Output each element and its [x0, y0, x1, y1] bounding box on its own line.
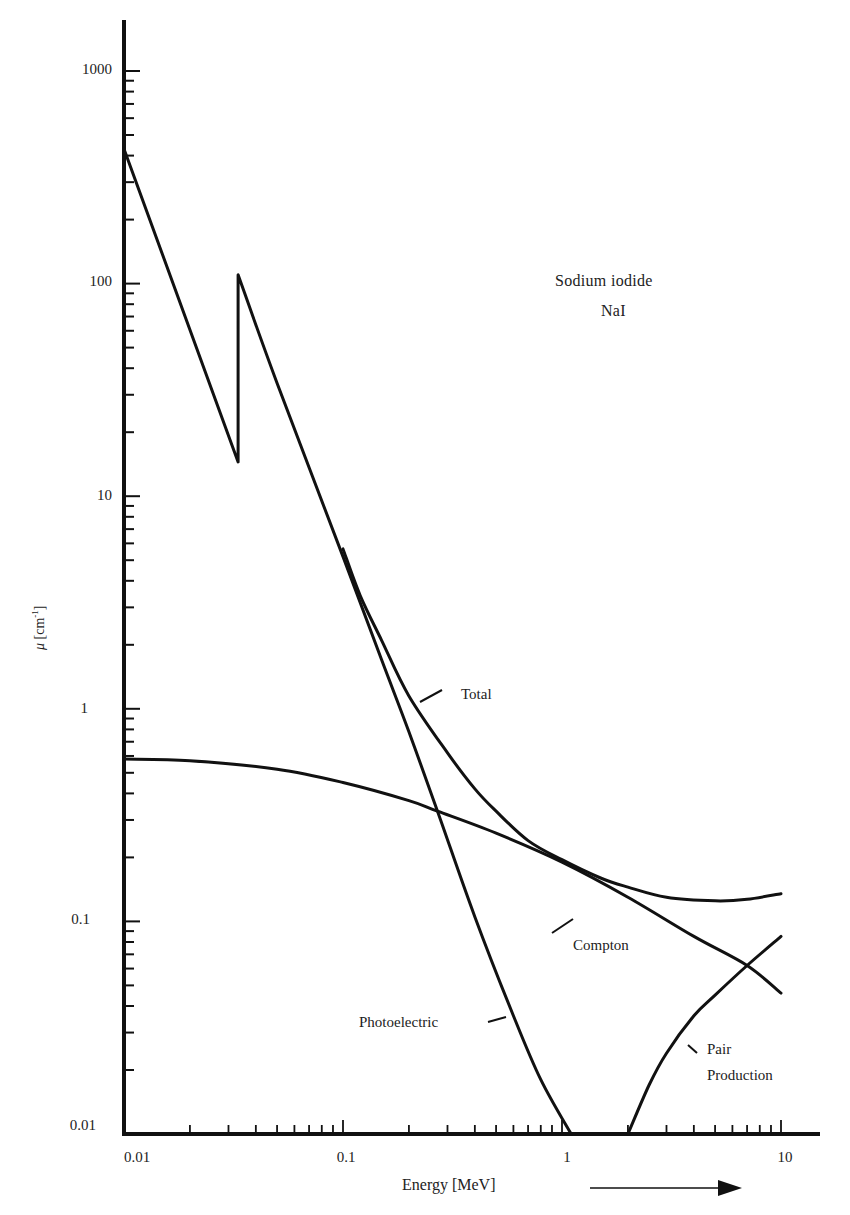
annotation-total: Total — [461, 686, 492, 703]
annotation-leaders — [420, 690, 697, 1053]
annotation-compton: Compton — [573, 937, 629, 954]
y-tick-label-0.1: 0.1 — [30, 911, 90, 928]
energy-arrow-icon — [590, 1180, 742, 1196]
leader-compton — [552, 919, 573, 933]
chart-subtitle: NaI — [601, 302, 626, 320]
y-axis-unit-exp: -1 — [30, 610, 40, 618]
y-axis-title: μ [cm-1] — [30, 606, 48, 650]
series-pair-production — [628, 936, 781, 1134]
y-tick-label-1000: 1000 — [52, 61, 112, 78]
series-photoelectric — [124, 149, 571, 1134]
series-total — [343, 549, 781, 901]
y-axis-unit: [cm — [32, 618, 47, 640]
series-compton — [124, 759, 781, 993]
chart-title: Sodium iodide — [555, 272, 653, 290]
y-tick-label-100: 100 — [52, 273, 112, 290]
x-axis-title: Energy [MeV] — [402, 1176, 495, 1194]
leader-total — [420, 690, 442, 702]
x-tick-label-0.1: 0.1 — [316, 1149, 376, 1166]
curves — [124, 149, 781, 1134]
annotation-photoelectric: Photoelectric — [359, 1014, 438, 1031]
x-tick-label-0.01: 0.01 — [107, 1149, 167, 1166]
axes — [122, 20, 820, 1136]
x-tick-label-1: 1 — [537, 1149, 597, 1166]
y-tick-label-0.01: 0.01 — [36, 1117, 96, 1134]
y-axis-mu: μ — [32, 643, 47, 650]
annotation-pair-production: Production — [707, 1067, 773, 1084]
annotation-pair: Pair — [707, 1041, 731, 1058]
y-tick-label-1: 1 — [28, 700, 88, 717]
x-tick-label-10: 10 — [755, 1149, 815, 1166]
attenuation-chart — [0, 0, 850, 1215]
y-tick-label-10: 10 — [52, 487, 112, 504]
leader-photoelectric — [488, 1017, 506, 1022]
y-axis-unit-close: ] — [32, 606, 47, 611]
leader-pair — [688, 1045, 697, 1053]
